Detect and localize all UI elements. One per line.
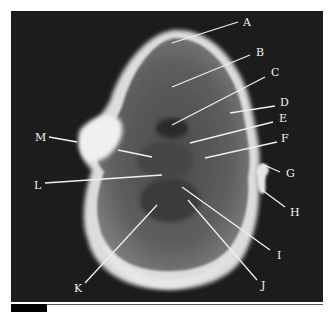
label-k: K bbox=[74, 283, 82, 294]
label-a: A bbox=[243, 17, 251, 28]
label-b: B bbox=[256, 47, 264, 58]
label-e: E bbox=[279, 113, 287, 124]
label-h: H bbox=[290, 207, 300, 218]
bottom-block bbox=[11, 304, 47, 312]
label-g: G bbox=[286, 168, 295, 179]
label-l: L bbox=[34, 180, 41, 191]
label-j: J bbox=[261, 280, 265, 291]
label-i: I bbox=[277, 250, 281, 261]
label-c: C bbox=[271, 67, 279, 78]
mri-figure: A B C D E F G H I J K L M bbox=[11, 11, 323, 302]
bottom-rule bbox=[11, 304, 323, 305]
label-m: M bbox=[35, 132, 46, 143]
label-f: F bbox=[281, 133, 289, 144]
label-d: D bbox=[280, 97, 289, 108]
